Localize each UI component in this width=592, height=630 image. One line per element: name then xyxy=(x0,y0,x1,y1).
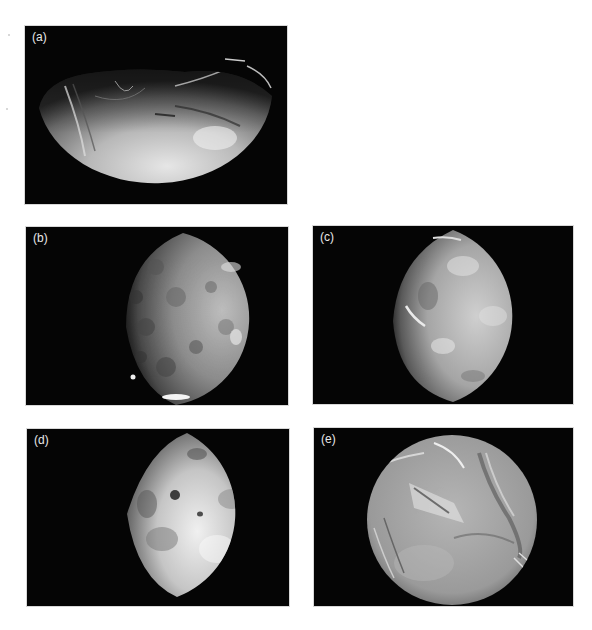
panel-d: (d) xyxy=(27,429,289,606)
scan-artifact xyxy=(6,108,8,110)
panel-label: (b) xyxy=(33,231,48,245)
panel-label: (a) xyxy=(32,30,47,44)
moon-image xyxy=(314,428,573,606)
moon-image xyxy=(27,429,289,606)
panel-e: (e) xyxy=(314,428,573,606)
panel-label: (c) xyxy=(320,230,334,244)
panel-b: (b) xyxy=(26,227,288,405)
panel-label: (d) xyxy=(34,433,49,447)
moon-image xyxy=(26,227,288,405)
panel-label: (e) xyxy=(321,432,336,446)
moon-image xyxy=(313,226,573,404)
panel-a: (a) xyxy=(25,26,287,204)
scan-artifact xyxy=(8,34,10,36)
panel-c: (c) xyxy=(313,226,573,404)
moon-image xyxy=(25,26,287,204)
